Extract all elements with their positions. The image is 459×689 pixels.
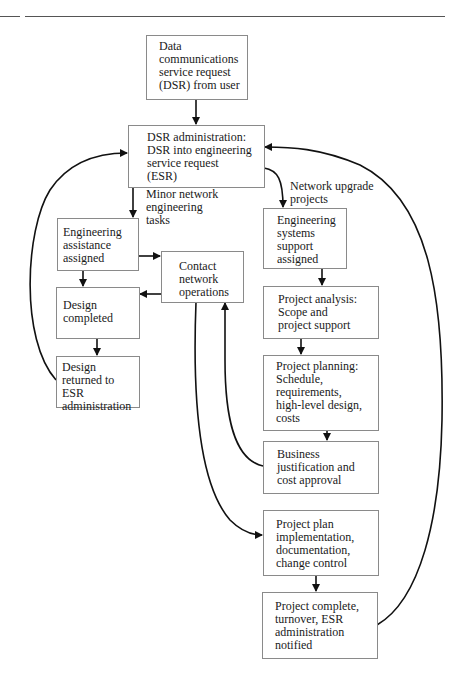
node-design-returned: Design returned to ESR administration (56, 356, 140, 408)
node-text: Design completed (63, 299, 113, 325)
node-project-analysis: Project analysis: Scope and project supp… (263, 286, 379, 339)
node-text: Business justification and cost approval (277, 448, 355, 487)
node-project-complete: Project complete, turnover, ESR administ… (262, 592, 378, 659)
node-business-justification: Business justification and cost approval (263, 441, 379, 494)
arrow-contact-to-implementation (195, 302, 262, 535)
node-text: Project planning: Schedule, requirements… (276, 360, 362, 425)
connector-layer (0, 0, 459, 689)
node-contact-netops: Contact network operations (161, 251, 244, 303)
node-text: Project analysis: Scope and project supp… (278, 293, 357, 332)
node-project-planning: Project planning: Schedule, requirements… (263, 355, 379, 431)
edge-label-minor-tasks: Minor network engineering tasks (146, 188, 218, 227)
edge-label-upgrade-projects: Network upgrade projects (290, 180, 374, 206)
node-eng-assistance: Engineering assistance assigned (57, 218, 139, 271)
node-text: Design returned to ESR administration (62, 361, 139, 413)
node-dsr-request: Data communications service request (DSR… (146, 35, 248, 100)
node-text: Engineering systems support assigned (277, 214, 336, 266)
node-dsr-admin: DSR administration: DSR into engineering… (128, 125, 265, 188)
arrow-admin-to-systems (264, 168, 283, 207)
arrow-business-to-contact (225, 303, 263, 466)
node-plan-implementation: Project plan implementation, documentati… (263, 510, 379, 576)
node-text: DSR administration: DSR into engineering… (147, 131, 252, 183)
node-text: Engineering assistance assigned (63, 226, 122, 265)
node-text: Contact network operations (179, 260, 229, 299)
node-design-completed: Design completed (56, 287, 140, 339)
node-eng-systems: Engineering systems support assigned (263, 208, 347, 269)
node-text: Data communications service request (DSR… (159, 40, 240, 92)
node-text: Project plan implementation, documentati… (276, 518, 354, 570)
node-text: Project complete, turnover, ESR administ… (275, 600, 359, 652)
